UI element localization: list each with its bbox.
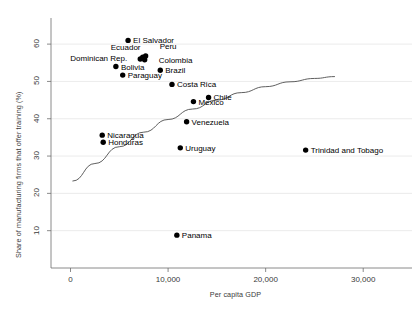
data-point-marker [169, 82, 174, 87]
y-tick-label: 50 [32, 70, 41, 92]
data-point-label: Venezuela [192, 118, 229, 127]
y-tick-label: 30 [32, 145, 41, 167]
x-axis-title: Per capita GDP [0, 290, 419, 299]
data-point-marker [100, 132, 105, 137]
fitted-curve [72, 77, 334, 181]
y-axis-title: Share of manufacturing firms that offer … [14, 92, 23, 258]
data-point-marker [178, 145, 183, 150]
data-point-label: Brazil [165, 66, 185, 75]
data-point-label: Paraguay [128, 71, 162, 80]
x-tick-label: 30,000 [333, 275, 393, 284]
data-point-label: Costa Rica [177, 80, 216, 89]
plot-area [0, 0, 419, 314]
x-tick-label: 20,000 [236, 275, 296, 284]
data-point-label: Trinidad and Tobago [311, 146, 384, 155]
y-tick-label: 10 [32, 219, 41, 241]
data-point-label: Mexico [198, 98, 223, 107]
x-tick-label: 0 [41, 275, 101, 284]
y-tick-label: 40 [32, 107, 41, 129]
data-point-marker [120, 72, 125, 77]
data-point-marker [174, 232, 179, 237]
data-point-label: Ecuador [111, 43, 141, 52]
data-point-marker [184, 119, 189, 124]
data-point-marker [101, 140, 106, 145]
y-tick-marks [47, 44, 51, 231]
data-point-marker [191, 99, 196, 104]
x-tick-marks [71, 268, 364, 272]
data-point-label: Uruguay [185, 144, 215, 153]
scatter-chart: Share of manufacturing firms that offer … [0, 0, 419, 314]
y-tick-label: 20 [32, 182, 41, 204]
gridlines [51, 44, 412, 231]
data-point-label: Honduras [108, 138, 143, 147]
data-point-marker [113, 64, 118, 69]
data-point-marker [303, 147, 308, 152]
x-tick-label: 10,000 [138, 275, 198, 284]
data-point-label: Colombia [159, 56, 193, 65]
y-tick-label: 60 [32, 33, 41, 55]
data-point-label: Panama [182, 231, 212, 240]
data-point-label: Dominican Rep. [70, 54, 127, 63]
data-point-label: Peru [160, 42, 177, 51]
